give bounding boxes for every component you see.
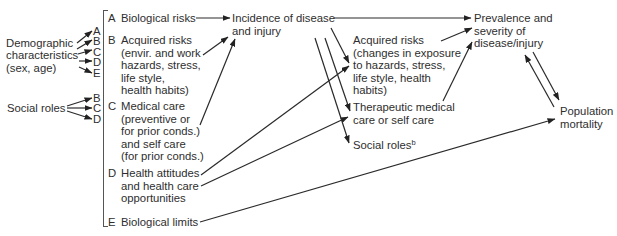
factor-B-letter: B (108, 34, 116, 47)
demographic-characteristics-label: Demographic characteristics (sex, age) (6, 37, 78, 74)
arrow-C-incidence (200, 39, 235, 125)
letter-E: E (93, 67, 101, 79)
factor-B-text: Acquired risks (envir. and work hazards,… (121, 34, 201, 97)
arrow-E-mortality (200, 119, 555, 222)
arrow-B-incidence (203, 37, 228, 55)
population-mortality-node: Population mortality (560, 105, 613, 130)
factor-C-letter: C (108, 100, 116, 113)
factor-C-text: Medical care (preventive or for prior co… (121, 100, 204, 163)
acquired-risks-changes-node: Acquired risks (changes in exposure to h… (353, 34, 461, 97)
factor-E-letter: E (108, 216, 116, 229)
social-roles-outcome-node: Social rolesb (353, 139, 416, 152)
factor-A-letter: A (108, 12, 116, 25)
factor-E-text: Biological limits (121, 216, 198, 229)
letter-D-social: D (93, 113, 101, 125)
therapeutic-care-node: Therapeutic medical care or self care (353, 101, 455, 126)
factor-D-letter: D (108, 167, 116, 180)
arrow-D-therapeutic (201, 117, 348, 186)
social-roles-outcome-label: Social roles (353, 139, 411, 151)
prevalence-node: Prevalence and severity of disease/injur… (474, 12, 553, 50)
footnote-b: b (411, 138, 415, 147)
incidence-node: Incidence of disease and injury (232, 12, 335, 37)
factor-D-text: Health attitudes and health care opportu… (121, 167, 200, 205)
social-roles-label: Social roles (7, 102, 65, 115)
arrow-D-acquired (201, 66, 349, 175)
arrow-incidence-therapeutic (325, 38, 350, 111)
factor-A-text: Biological risks (121, 12, 196, 25)
